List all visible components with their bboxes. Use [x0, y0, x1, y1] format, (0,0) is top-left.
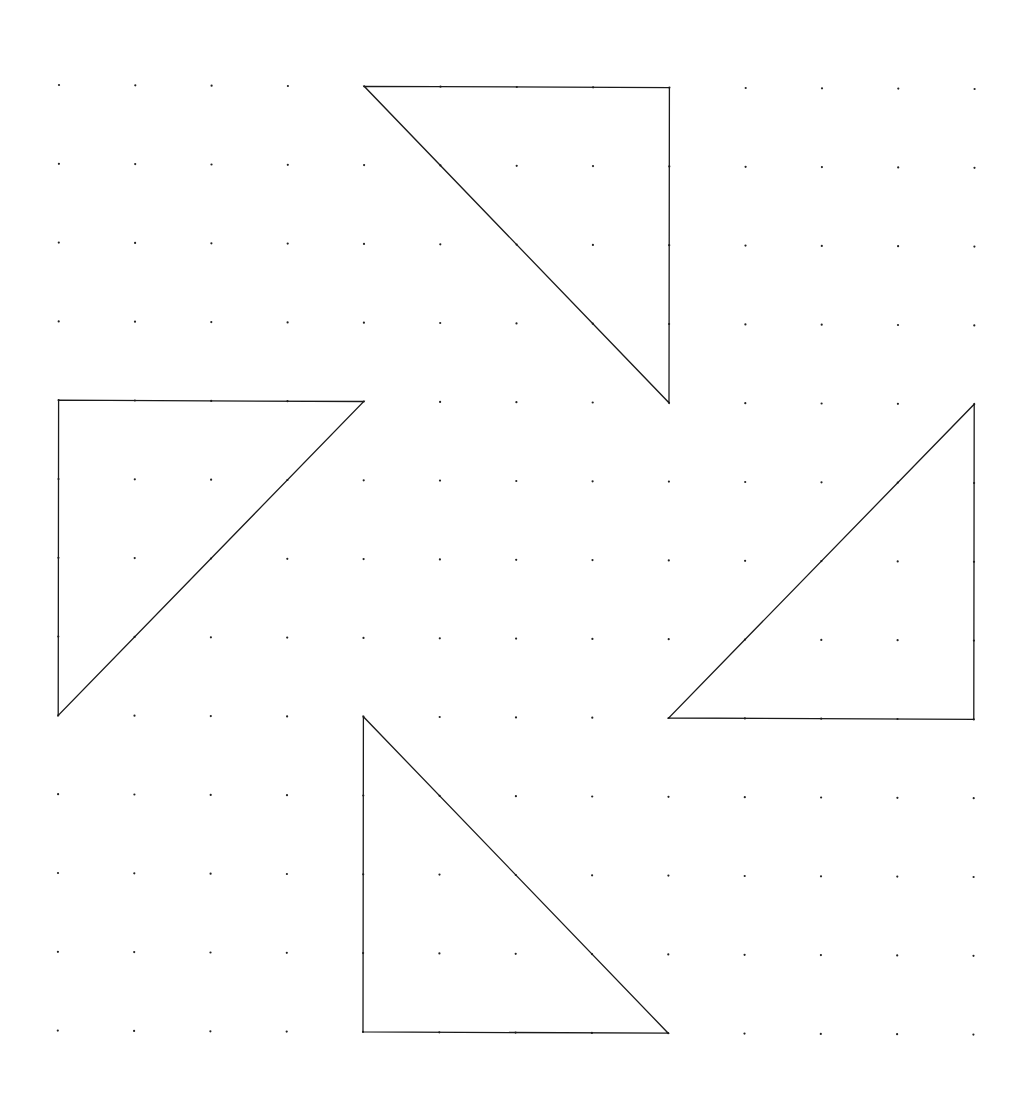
- grid-dot: [134, 84, 136, 86]
- grid-dot: [210, 321, 212, 323]
- grid-dot: [744, 796, 746, 798]
- grid-dot: [363, 164, 365, 166]
- grid-dot: [57, 1030, 59, 1032]
- grid-dot: [820, 796, 822, 798]
- grid-dot: [133, 872, 135, 874]
- grid-dot: [820, 639, 822, 641]
- grid-dot: [516, 165, 518, 167]
- grid-dot: [515, 480, 517, 482]
- right-triangle: [669, 404, 975, 719]
- grid-dot: [973, 797, 975, 799]
- grid-dot: [210, 715, 212, 717]
- bottom-triangle: [363, 717, 668, 1033]
- grid-dot: [744, 402, 746, 404]
- grid-dot: [744, 954, 746, 956]
- grid-dot: [820, 481, 822, 483]
- grid-dot: [363, 322, 365, 324]
- grid-dot: [821, 402, 823, 404]
- grid-dot: [363, 479, 365, 481]
- grid-dot: [58, 320, 60, 322]
- grid-dot: [439, 480, 441, 482]
- grid-dot: [58, 84, 60, 86]
- grid-dot: [286, 952, 288, 954]
- grid-dot: [820, 875, 822, 877]
- grid-dot: [745, 87, 747, 89]
- grid-dot: [974, 88, 976, 90]
- grid-dot: [592, 165, 594, 167]
- grid-dot: [438, 874, 440, 876]
- grid-dot: [897, 166, 899, 168]
- grid-dot: [973, 167, 975, 169]
- grid-dot: [667, 953, 669, 955]
- grid-dot: [591, 874, 593, 876]
- grid-dot: [133, 793, 135, 795]
- grid-dot: [973, 324, 975, 326]
- grid-dot: [591, 638, 593, 640]
- grid-dot: [133, 951, 135, 953]
- grid-dot: [515, 559, 517, 561]
- grid-dot: [897, 403, 899, 405]
- top-triangle: [364, 86, 669, 403]
- grid-dot: [744, 245, 746, 247]
- grid-dot: [897, 560, 899, 562]
- grid-dot: [287, 85, 289, 87]
- grid-dot: [134, 478, 136, 480]
- grid-dot: [821, 245, 823, 247]
- grid-dot: [287, 243, 289, 245]
- grid-dot: [591, 717, 593, 719]
- grid-dot: [668, 559, 670, 561]
- grid-dot: [134, 557, 136, 559]
- grid-dot: [134, 242, 136, 244]
- grid-dot: [972, 1034, 974, 1036]
- left-triangle: [58, 400, 364, 715]
- grid-dot: [287, 321, 289, 323]
- grid-dot: [897, 639, 899, 641]
- grid-dot: [363, 558, 365, 560]
- grid-dot: [210, 479, 212, 481]
- grid-dot: [820, 1033, 822, 1035]
- grid-dot: [896, 876, 898, 878]
- grid-dot: [592, 401, 594, 403]
- grid-dot: [896, 1033, 898, 1035]
- grid-dot: [973, 876, 975, 878]
- grid-dot: [973, 246, 975, 248]
- grid-dot: [439, 558, 441, 560]
- grid-dot: [515, 638, 517, 640]
- grid-dot: [133, 1030, 135, 1032]
- grid-dot: [744, 560, 746, 562]
- grid-dot: [439, 322, 441, 324]
- grid-dot: [744, 323, 746, 325]
- grid-dot: [134, 321, 136, 323]
- grid-dot: [286, 873, 288, 875]
- grid-dot: [210, 794, 212, 796]
- grid-dot: [897, 245, 899, 247]
- grid-dot: [133, 715, 135, 717]
- grid-dot: [211, 85, 213, 87]
- grid-dot: [286, 558, 288, 560]
- grid-dot: [896, 797, 898, 799]
- grid-dot: [286, 794, 288, 796]
- grid-dot: [57, 951, 59, 953]
- grid-dot: [134, 163, 136, 165]
- grid-dot: [57, 793, 59, 795]
- grid-dot: [744, 481, 746, 483]
- grid-dot: [592, 480, 594, 482]
- grid-dot: [58, 163, 60, 165]
- grid-dots: [57, 84, 976, 1036]
- grid-dot: [668, 638, 670, 640]
- grid-dot: [745, 166, 747, 168]
- grid-dot: [439, 637, 441, 639]
- grid-dot: [591, 795, 593, 797]
- grid-dot: [286, 715, 288, 717]
- grid-dot: [362, 637, 364, 639]
- grid-dot: [896, 954, 898, 956]
- grid-dot: [439, 401, 441, 403]
- grid-dot: [972, 955, 974, 957]
- grid-dot: [515, 953, 517, 955]
- grid-dot: [439, 243, 441, 245]
- grid-dot: [210, 163, 212, 165]
- grid-dot: [515, 795, 517, 797]
- grid-dot: [58, 242, 60, 244]
- grid-dot: [439, 716, 441, 718]
- dot-grid-diagram: [0, 0, 1023, 1108]
